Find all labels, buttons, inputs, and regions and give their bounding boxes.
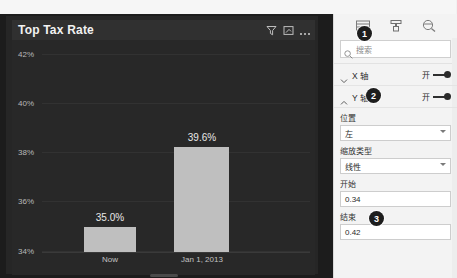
horizontal-scrollbar[interactable]: [150, 274, 178, 277]
field-end: 结束 0.42: [334, 207, 457, 240]
field-position: 位置 左: [334, 108, 457, 141]
y-axis-switch[interactable]: [433, 93, 451, 101]
gridline: [42, 103, 310, 104]
end-input[interactable]: 0.42: [340, 224, 451, 240]
chevron-up-icon: [340, 93, 348, 101]
position-value: 左: [345, 128, 353, 139]
data-label-jan-1-2013: 39.6%: [171, 132, 233, 143]
ribbon-ghost-text: · · · · · · · · · · · · · · · · · ·: [90, 0, 246, 3]
x-axis-tick-jan-1-2013: Jan 1, 2013: [170, 255, 234, 264]
section-x-axis[interactable]: X 轴 开: [334, 64, 457, 86]
annotation-badge-3: 3: [369, 211, 384, 226]
pane-tab-bar: [334, 14, 457, 38]
search-icon: [344, 45, 353, 54]
x-axis-tick-now: Now: [80, 255, 140, 264]
x-axis-toggle[interactable]: 开: [422, 69, 451, 80]
focus-mode-icon[interactable]: [283, 25, 294, 36]
report-page: Top Tax Rate: [6, 16, 318, 274]
search-input[interactable]: 搜索: [340, 40, 451, 58]
chevron-down-icon: [440, 163, 446, 166]
filter-icon[interactable]: [266, 25, 277, 36]
visualizations-pane: 搜索 X 轴 开 Y 轴: [333, 14, 457, 278]
bar-jan-1-2013[interactable]: [174, 147, 229, 252]
field-position-label: 位置: [340, 112, 451, 123]
section-x-axis-label: X 轴: [352, 69, 369, 81]
annotation-badge-2: 2: [366, 88, 381, 103]
y-axis-tick: 42%: [18, 50, 34, 59]
position-select[interactable]: 左: [340, 125, 451, 141]
bar-now[interactable]: [84, 227, 136, 252]
field-start-label: 开始: [340, 178, 451, 189]
x-axis-switch[interactable]: [433, 71, 451, 79]
format-paint-icon[interactable]: [388, 19, 404, 33]
start-input[interactable]: 0.34: [340, 191, 451, 207]
chevron-down-icon: [340, 71, 348, 79]
x-axis-toggle-label: 开: [422, 69, 430, 80]
scale-type-value: 线性: [345, 161, 361, 172]
y-axis-tick: 40%: [18, 99, 34, 108]
y-axis-tick: 36%: [18, 197, 34, 206]
end-value: 0.42: [345, 228, 361, 237]
y-axis-tick: 34%: [18, 247, 34, 256]
field-scale-type: 缩放类型 线性: [334, 141, 457, 174]
start-value: 0.34: [345, 195, 361, 204]
y-axis-toggle[interactable]: 开: [422, 91, 451, 102]
field-end-label: 结束: [340, 211, 451, 222]
pane-right-edge: [452, 14, 457, 278]
page-title: Top Tax Rate: [18, 23, 94, 37]
field-start: 开始 0.34: [334, 174, 457, 207]
plot-area: 42% 40% 38% 36% 34% 35.0% 39.6% Now Jan …: [12, 40, 315, 275]
y-axis-tick: 38%: [18, 148, 34, 157]
search-placeholder: 搜索: [356, 44, 372, 55]
top-ribbon-strip: · · · · · · · · · · · · · · · · · ·: [0, 0, 456, 14]
annotation-badge-1: 1: [357, 26, 372, 41]
field-scale-type-label: 缩放类型: [340, 145, 451, 156]
section-y-axis[interactable]: Y 轴 开: [334, 86, 457, 108]
more-options-icon[interactable]: [300, 24, 310, 37]
visual-header-icons: [266, 24, 310, 37]
bar-chart-visual[interactable]: Top Tax Rate: [12, 20, 315, 275]
report-canvas: Top Tax Rate: [0, 14, 333, 278]
analytics-icon[interactable]: [421, 19, 437, 33]
x-axis-line: [42, 252, 310, 253]
chevron-down-icon: [440, 130, 446, 133]
data-label-now: 35.0%: [80, 212, 140, 223]
visual-header: Top Tax Rate: [12, 20, 315, 40]
gridline: [42, 54, 310, 55]
y-axis-toggle-label: 开: [422, 91, 430, 102]
scale-type-select[interactable]: 线性: [340, 158, 451, 174]
